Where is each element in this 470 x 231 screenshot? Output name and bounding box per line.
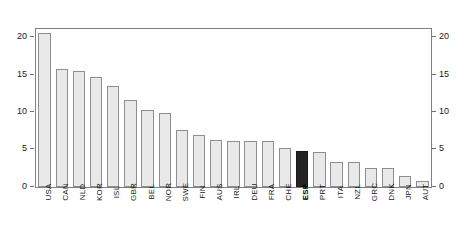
bar-slot [88, 29, 105, 187]
bar-slot [259, 29, 276, 187]
bar-slot [397, 29, 414, 187]
x-label-slot: FRA [259, 190, 276, 231]
x-tick-label: ITA [337, 186, 345, 198]
x-tick-label: BEL [148, 184, 156, 200]
bar-slot [362, 29, 379, 187]
y-tick-mark [30, 111, 34, 112]
y-tick-label: 5 [22, 144, 27, 153]
y-tick-label: 15 [17, 70, 27, 79]
bar[interactable] [107, 86, 119, 187]
y-tick-mark [432, 186, 436, 187]
bar[interactable] [124, 100, 136, 187]
bar[interactable] [38, 33, 50, 187]
x-label-slot: NOR [156, 190, 173, 231]
x-tick-label: KOR [96, 183, 104, 201]
y-axis-left: 05101520 [0, 28, 34, 188]
bar-slot [173, 29, 190, 187]
bar-highlighted[interactable] [296, 151, 308, 187]
y-tick-mark [30, 36, 34, 37]
bar[interactable] [56, 69, 68, 187]
bar[interactable] [159, 113, 171, 187]
x-label-slot: BEL [139, 190, 156, 231]
bar[interactable] [279, 148, 291, 188]
y-tick-mark [30, 148, 34, 149]
bar-slot [242, 29, 259, 187]
x-tick-label: GBR [130, 183, 138, 201]
bar-slot [36, 29, 53, 187]
x-tick-label: NOR [165, 183, 173, 201]
x-label-slot: PRT [311, 190, 328, 231]
bar[interactable] [73, 71, 85, 187]
x-label-slot: ITA [328, 190, 345, 231]
bar-slot [311, 29, 328, 187]
bar-slot [379, 29, 396, 187]
bar[interactable] [227, 141, 239, 187]
x-tick-label: NZL [354, 184, 362, 200]
x-tick-label: AUT [422, 184, 430, 201]
bar-slot [139, 29, 156, 187]
x-tick-label: CAN [62, 183, 70, 201]
x-tick-label: USA [45, 183, 53, 200]
bar[interactable] [313, 152, 325, 187]
y-tick-label: 10 [17, 107, 27, 116]
x-tick-label: JPN [405, 184, 413, 200]
x-label-slot: USA [36, 190, 53, 231]
x-label-slot: SWE [173, 190, 190, 231]
x-tick-label: FIN [199, 185, 207, 199]
bar-slot [105, 29, 122, 187]
bar[interactable] [210, 140, 222, 187]
y-tick-label: 15 [439, 70, 449, 79]
x-tick-label: IRL [233, 185, 241, 198]
y-tick-mark [30, 186, 34, 187]
bar[interactable] [176, 130, 188, 187]
x-tick-label: GRC [371, 183, 379, 201]
x-tick-label: SWE [182, 183, 190, 202]
y-tick-mark [30, 74, 34, 75]
bar-slot [70, 29, 87, 187]
y-tick-label: 5 [439, 144, 444, 153]
bar-slot [122, 29, 139, 187]
bar[interactable] [330, 162, 342, 187]
bar[interactable] [141, 110, 153, 188]
bar-slot [414, 29, 431, 187]
bar[interactable] [244, 141, 256, 187]
x-tick-label: FRA [268, 184, 276, 201]
bar-chart: 05101520 05101520 USACANNLDKORISLGBRBELN… [0, 0, 470, 231]
y-tick-label: 20 [17, 32, 27, 41]
x-tick-label: AUS [216, 183, 224, 200]
bar-slot [276, 29, 293, 187]
x-tick-label: DEU [251, 183, 259, 201]
x-tick-label: DNK [388, 183, 396, 201]
y-tick-mark [432, 148, 436, 149]
bar-slot [345, 29, 362, 187]
x-axis-labels: USACANNLDKORISLGBRBELNORSWEFINAUSIRLDEUF… [36, 190, 431, 231]
bar[interactable] [262, 141, 274, 187]
bar[interactable] [90, 77, 102, 187]
y-tick-label: 0 [439, 182, 444, 191]
x-tick-label: NLD [79, 184, 87, 201]
x-label-slot: ISL [105, 190, 122, 231]
x-label-slot: CAN [53, 190, 70, 231]
bar-slot [53, 29, 70, 187]
bar[interactable] [193, 135, 205, 187]
x-label-slot: AUS [208, 190, 225, 231]
y-tick-mark [432, 74, 436, 75]
y-tick-label: 10 [439, 107, 449, 116]
x-tick-label-highlighted: ESP [302, 184, 310, 201]
bar-slot [294, 29, 311, 187]
y-axis-right: 05101520 [432, 28, 466, 188]
x-tick-label: ISL [113, 186, 121, 199]
x-label-slot: NLD [70, 190, 87, 231]
x-label-slot: FIN [191, 190, 208, 231]
bar-slot [191, 29, 208, 187]
x-tick-label: CHE [285, 183, 293, 201]
bars-container [36, 29, 431, 187]
y-tick-label: 0 [22, 182, 27, 191]
bar-slot [225, 29, 242, 187]
y-tick-label: 20 [439, 32, 449, 41]
x-label-slot: DNK [379, 190, 396, 231]
x-label-slot: AUT [414, 190, 431, 231]
x-label-slot: CHE [276, 190, 293, 231]
y-tick-mark [432, 36, 436, 37]
bar-slot [156, 29, 173, 187]
